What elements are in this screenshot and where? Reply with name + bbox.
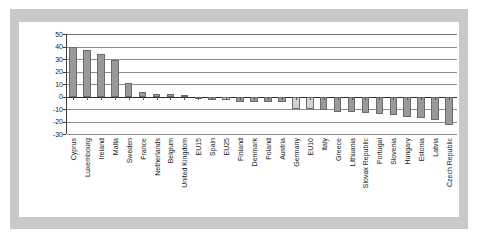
x-tick-mark: [324, 97, 325, 100]
x-tick-label: Cyprus: [69, 138, 76, 160]
y-tick-mark: [63, 47, 66, 48]
y-tick-mark: [63, 134, 66, 135]
x-tick-label: Slovak Republic: [362, 138, 369, 188]
x-tick-label: Latvia: [432, 138, 439, 157]
bar: [403, 97, 411, 117]
x-tick-label: Denmark: [251, 138, 258, 166]
figure-plate: 50403020100-10-20-30 CyprusLuxembourgIre…: [19, 22, 459, 217]
x-tick-label: Germany: [292, 138, 299, 167]
bar: [111, 60, 119, 96]
y-tick-label: -30: [37, 131, 63, 138]
y-tick-label: -20: [37, 118, 63, 125]
x-tick-label: Belgium: [167, 138, 174, 163]
x-tick-label: Netherlands: [153, 138, 160, 176]
y-tick-label: 0: [37, 93, 63, 100]
y-tick-mark: [63, 109, 66, 110]
x-tick-label: Ireland: [97, 138, 104, 159]
x-tick-label: United Kingdom: [181, 138, 188, 188]
x-tick-mark: [393, 97, 394, 100]
x-tick-mark: [338, 97, 339, 100]
x-tick-label: Greece: [334, 138, 341, 161]
y-tick-label: 20: [37, 68, 63, 75]
gridline: [67, 134, 457, 135]
x-tick-mark: [170, 97, 171, 100]
x-tick-mark: [449, 97, 450, 100]
x-tick-mark: [198, 97, 199, 100]
y-tick-label: 10: [37, 81, 63, 88]
bar: [97, 54, 105, 97]
x-tick-mark: [212, 97, 213, 100]
x-tick-label: Czech Republic: [446, 138, 453, 187]
bars-layer: [66, 34, 456, 134]
x-tick-label: Lithuania: [348, 138, 355, 166]
bar: [69, 47, 77, 97]
x-tick-mark: [407, 97, 408, 100]
y-tick-label: 40: [37, 43, 63, 50]
x-tick-label: Hungary: [404, 138, 411, 164]
y-tick-label: 50: [37, 31, 63, 38]
y-tick-mark: [63, 34, 66, 35]
x-tick-label: Italy: [320, 138, 327, 151]
y-tick-label: 30: [37, 56, 63, 63]
y-tick-mark: [63, 72, 66, 73]
x-tick-mark: [282, 97, 283, 100]
x-tick-mark: [240, 97, 241, 100]
x-tick-label: Austria: [278, 138, 285, 160]
x-tick-label: EU10: [306, 138, 313, 156]
x-tick-label: Luxembourg: [83, 138, 90, 177]
x-tick-mark: [352, 97, 353, 100]
x-tick-mark: [87, 97, 88, 100]
x-tick-mark: [296, 97, 297, 100]
y-axis: 50403020100-10-20-30: [31, 34, 63, 134]
x-tick-label: Finland: [237, 138, 244, 161]
bar: [431, 97, 439, 121]
x-tick-mark: [226, 97, 227, 100]
y-tick-mark: [63, 97, 66, 98]
x-tick-label: Poland: [264, 138, 271, 160]
bar: [125, 83, 133, 97]
x-tick-mark: [421, 97, 422, 100]
x-tick-mark: [73, 97, 74, 100]
bar: [445, 97, 453, 126]
x-tick-mark: [310, 97, 311, 100]
x-tick-mark: [184, 97, 185, 100]
bar-chart: 50403020100-10-20-30 CyprusLuxembourgIre…: [19, 22, 459, 217]
x-tick-label: France: [139, 138, 146, 160]
y-tick-mark: [63, 122, 66, 123]
x-tick-label: Spain: [209, 138, 216, 156]
x-tick-mark: [435, 97, 436, 100]
x-tick-mark: [129, 97, 130, 100]
figure-root: 50403020100-10-20-30 CyprusLuxembourgIre…: [0, 0, 478, 238]
y-tick-mark: [63, 59, 66, 60]
x-tick-label: Slovenia: [390, 138, 397, 165]
x-tick-mark: [115, 97, 116, 100]
x-tick-label: Malta: [111, 138, 118, 155]
x-tick-mark: [254, 97, 255, 100]
x-tick-label: EU25: [223, 138, 230, 156]
y-tick-label: -10: [37, 106, 63, 113]
x-tick-mark: [143, 97, 144, 100]
x-tick-mark: [101, 97, 102, 100]
x-tick-mark: [268, 97, 269, 100]
x-tick-label: Sweden: [125, 138, 132, 163]
x-axis: CyprusLuxembourgIrelandMaltaSwedenFrance…: [66, 138, 456, 216]
x-tick-mark: [365, 97, 366, 100]
x-tick-label: EU15: [195, 138, 202, 156]
x-tick-mark: [157, 97, 158, 100]
x-tick-label: Portugal: [376, 138, 383, 164]
bar: [83, 50, 91, 96]
x-tick-mark: [379, 97, 380, 100]
y-tick-mark: [63, 84, 66, 85]
bar: [417, 97, 425, 118]
x-tick-label: Estonia: [418, 138, 425, 161]
